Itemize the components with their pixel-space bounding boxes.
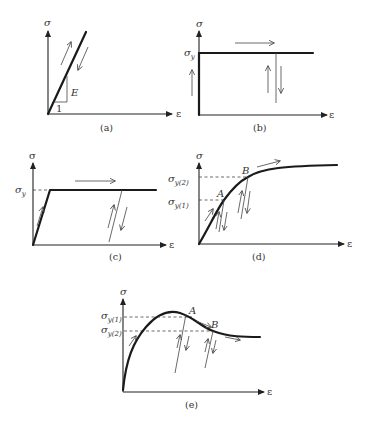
reload-arrow-icon [205, 339, 208, 352]
hardening-curve [199, 165, 337, 244]
point-b-label: B [210, 319, 218, 330]
sigma-axis-label: σ [44, 17, 52, 28]
unit-run-label: 1 [56, 103, 62, 114]
caption-c: (c) [109, 251, 122, 262]
caption-a: (a) [100, 122, 113, 133]
modulus-label: E [70, 87, 79, 98]
stress-strain-figure: σ ε E 1 (a) σ ε σy (b) σ ε σy [0, 0, 372, 429]
yield2-label: σy(2) [168, 173, 189, 187]
unloading-arrow-icon [213, 340, 216, 353]
unload-line-b [205, 331, 213, 368]
sigma-axis-label: σ [29, 150, 36, 161]
panel-c-elastic-perfectly-plastic: σ ε σy (c) [15, 150, 174, 262]
unloading-arrow-icon [224, 212, 227, 230]
yield1-label: σy(1) [168, 196, 189, 210]
unload-line-a [175, 314, 186, 373]
epsilon-axis-label: ε [267, 386, 272, 397]
unloading-arrow-icon [78, 47, 88, 70]
caption-d: (d) [252, 251, 266, 262]
yield-stress-label: σy [184, 47, 196, 61]
point-a-label: A [216, 188, 224, 199]
reload-arrow-icon [177, 335, 180, 348]
softening-curve [123, 312, 260, 390]
unloading-arrow-icon [186, 336, 189, 350]
sigma-axis-label: σ [196, 150, 204, 161]
yield2-label: σy(2) [101, 324, 122, 338]
yield-stress-label: σy [15, 184, 27, 198]
unloading-arrow-icon [121, 207, 127, 230]
reload-arrow-icon [238, 191, 242, 213]
caption-e: (e) [185, 399, 198, 410]
sigma-axis-label: σ [196, 18, 204, 29]
loading-arrow-icon [61, 42, 71, 65]
sigma-axis-label: σ [120, 286, 128, 297]
point-a-label: A [188, 305, 196, 316]
unloading-arrow-icon [247, 191, 250, 213]
caption-b: (b) [253, 122, 267, 133]
flow-arrow-icon [257, 161, 280, 167]
epsilon-axis-label: ε [169, 239, 174, 250]
panel-a-linear-elastic: σ ε E 1 (a) [44, 17, 181, 133]
point-b-label: B [241, 165, 249, 176]
yield1-label: σy(1) [101, 310, 122, 324]
epsilon-axis-label: ε [347, 238, 352, 249]
elastic-plastic-curve [33, 190, 156, 245]
panel-d-strain-hardening: σ ε σy(2) σy(1) A B (d) [168, 150, 352, 262]
epsilon-axis-label: ε [329, 109, 334, 120]
panel-e-strain-softening: σ ε σy(1) σy(2) A B (e) [101, 286, 272, 410]
epsilon-axis-label: ε [176, 108, 181, 119]
panel-b-rigid-perfectly-plastic: σ ε σy (b) [184, 18, 334, 133]
